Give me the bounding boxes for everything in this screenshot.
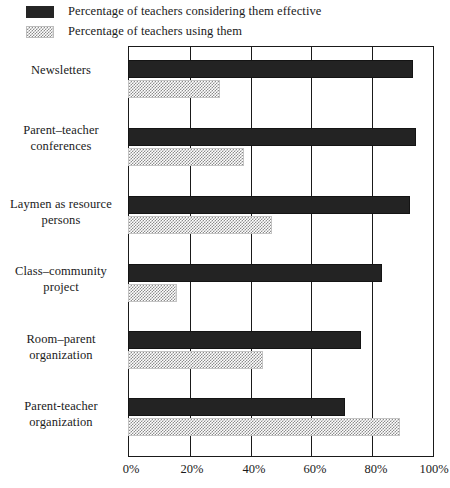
dark-solid-swatch-icon [26,6,54,18]
category-line: organization [0,414,122,430]
legend-label-using: Percentage of teachers using them [68,24,242,39]
category-label-parent-teacher-conferences: Parent–teacher conferences [0,122,122,154]
category-line: organization [0,347,122,363]
category-line: Parent-teacher [0,398,122,414]
xtick-40: 40% [243,461,266,478]
category-line: Laymen as resource [0,196,122,212]
category-line: project [0,279,122,295]
category-line: conferences [0,138,122,154]
xtick-60: 60% [304,461,327,478]
category-line: persons [0,212,122,228]
legend-label-effective: Percentage of teachers considering them … [68,4,322,19]
gridline-20 [190,47,191,456]
category-line: Room–parent [0,331,122,347]
xtick-20: 20% [181,461,204,478]
chart-legend: Percentage of teachers considering them … [26,2,436,42]
xtick-0: 0% [123,461,140,478]
category-label-class-community-project: Class–community project [0,263,122,295]
xtick-100: 100% [419,461,448,478]
x-axis-tick-labels: 0% 20% 40% 60% 80% 100% [0,461,450,485]
category-axis-labels: Newsletters Parent–teacher conferences L… [0,46,124,457]
gridline-40 [251,47,252,456]
legend-entry-using: Percentage of teachers using them [26,22,436,41]
category-line: Newsletters [0,62,122,78]
category-line: Class–community [0,263,122,279]
xtick-80: 80% [365,461,388,478]
category-line: Parent–teacher [0,122,122,138]
gridline-60 [311,47,312,456]
legend-entry-effective: Percentage of teachers considering them … [26,2,436,21]
category-label-newsletters: Newsletters [0,62,122,78]
category-label-room-parent-organization: Room–parent organization [0,331,122,363]
gridline-80 [372,47,373,456]
gray-hatched-swatch-icon [26,26,54,38]
category-label-laymen-as-resource-persons: Laymen as resource persons [0,196,122,228]
category-label-parent-teacher-organization: Parent-teacher organization [0,398,122,430]
plot-area [128,46,434,457]
